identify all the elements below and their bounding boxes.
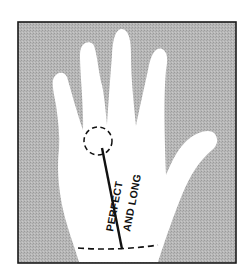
- hand-illustration: PERFECT AND LONG: [0, 0, 249, 278]
- palmistry-diagram: PERFECT AND LONG: [0, 0, 249, 278]
